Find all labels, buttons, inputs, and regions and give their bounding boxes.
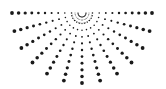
sunburst-dot xyxy=(107,38,109,40)
sunburst-arc-dot xyxy=(81,23,82,24)
sunburst-dot xyxy=(60,24,62,26)
sunburst-dot xyxy=(59,49,62,52)
sunburst-dot xyxy=(49,30,51,32)
sunburst-arc-dot xyxy=(83,16,84,17)
sunburst-arc-dot xyxy=(72,17,73,18)
sunburst-dot xyxy=(40,52,43,55)
sunburst-arc-dot xyxy=(88,20,89,21)
sunburst-dot xyxy=(77,29,79,31)
sunburst-dot xyxy=(35,56,39,60)
sunburst-dot xyxy=(105,12,107,14)
sunburst-arc-dot xyxy=(75,20,76,21)
sunburst-dot xyxy=(68,60,71,63)
sunburst-dots xyxy=(10,11,154,85)
sunburst-dot xyxy=(26,26,29,29)
sunburst-dot xyxy=(66,66,69,69)
sunburst-dot xyxy=(104,18,106,20)
sunburst-dot xyxy=(97,72,101,76)
sunburst-dot xyxy=(55,38,57,40)
sunburst-dot xyxy=(87,35,89,37)
sunburst-dot xyxy=(106,55,109,58)
sunburst-dot xyxy=(81,42,83,44)
sunburst-arc-dot xyxy=(78,13,79,14)
sunburst-dot xyxy=(86,29,88,31)
sunburst-dot xyxy=(81,23,82,24)
sunburst-arc-dot xyxy=(91,15,92,16)
sunburst-arc-dot xyxy=(92,13,93,14)
sunburst-arc-dot xyxy=(85,13,86,14)
sunburst-dot xyxy=(111,42,114,45)
sunburst-arc-dot xyxy=(75,13,76,14)
sunburst-dot xyxy=(44,12,46,14)
sunburst-dot xyxy=(73,41,75,43)
sunburst-arc-dot xyxy=(84,19,85,20)
sunburst-dot xyxy=(12,29,16,33)
sunburst-arc-dot xyxy=(83,23,84,24)
sunburst-dot xyxy=(116,47,119,50)
sunburst-arc-dot xyxy=(89,13,90,14)
sunburst-dot xyxy=(99,44,101,46)
sunburst-dot xyxy=(10,11,14,15)
sunburst-dot xyxy=(45,72,49,76)
sunburst-dot xyxy=(102,24,104,26)
sunburst-dot xyxy=(96,38,98,40)
sunburst-dot xyxy=(124,37,127,40)
sunburst-dot xyxy=(130,40,133,43)
sunburst-dot xyxy=(37,37,40,40)
sunburst-dot xyxy=(49,66,53,70)
sunburst-arc-dot xyxy=(77,18,78,19)
sunburst-dot xyxy=(131,12,134,15)
sunburst-dot xyxy=(65,17,67,19)
sunburst-dot xyxy=(69,33,71,35)
sunburst-dot xyxy=(69,54,72,57)
sunburst-dot xyxy=(30,12,33,15)
sunburst-dot xyxy=(93,33,95,35)
sunburst-arc-dot xyxy=(79,19,80,20)
sunburst-dot xyxy=(112,66,116,70)
sunburst-dot xyxy=(124,12,127,15)
sunburst-dot xyxy=(135,26,138,29)
sunburst-dot xyxy=(81,49,83,51)
sunburst-dot xyxy=(118,12,120,14)
sunburst-dot xyxy=(64,12,66,14)
sunburst-dot xyxy=(80,75,84,79)
sunburst-dot xyxy=(81,29,83,31)
sunburst-dot xyxy=(81,62,84,65)
sunburst-dot xyxy=(66,21,68,23)
sunburst-arc-dot xyxy=(72,15,73,16)
sunburst-dot xyxy=(64,29,66,31)
sunburst-dot xyxy=(98,12,100,14)
sunburst-dot xyxy=(55,27,57,29)
sunburst-arc-dot xyxy=(78,13,79,14)
sunburst-dot xyxy=(73,27,75,29)
sunburst-dot xyxy=(43,33,46,36)
sunburst-arc-dot xyxy=(82,17,83,18)
sunburst-arc-dot xyxy=(88,15,89,16)
sunburst-dot xyxy=(129,25,132,28)
sunburst-dot xyxy=(81,55,84,58)
sunburst-dot xyxy=(95,66,98,69)
sunburst-dot xyxy=(90,27,92,29)
sunburst-arc-dot xyxy=(73,18,74,19)
sunburst-dot xyxy=(50,42,53,45)
sunburst-dot xyxy=(125,56,129,60)
sunburst-arc-dot xyxy=(78,14,79,15)
sunburst-arc-dot xyxy=(81,20,82,21)
sunburst-dot xyxy=(91,18,92,19)
sunburst-dot xyxy=(69,24,71,26)
sunburst-dot xyxy=(118,33,121,36)
sunburst-dot xyxy=(52,61,55,64)
sunburst-dot xyxy=(102,49,105,52)
sunburst-dot xyxy=(148,29,152,33)
sunburst-arc-dot xyxy=(86,13,87,14)
sunburst-dot xyxy=(75,35,77,37)
sunburst-dot xyxy=(31,40,34,43)
sunburst-arc-dot xyxy=(87,21,88,22)
sunburst-dot xyxy=(123,23,126,26)
sunburst-dot xyxy=(102,33,104,35)
sunburst-dot xyxy=(117,21,119,23)
sunburst-arc-dot xyxy=(81,17,82,18)
sunburst-dot xyxy=(109,61,112,64)
sunburst-dot xyxy=(55,55,58,58)
sunburst-dot xyxy=(24,11,27,14)
